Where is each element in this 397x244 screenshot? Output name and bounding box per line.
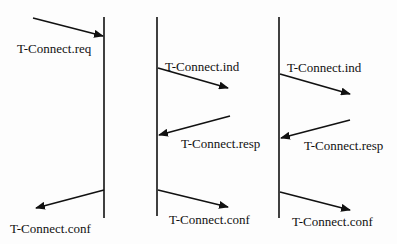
- label-b-ind: T-Connect.ind: [165, 60, 239, 73]
- label-a-conf: T-Connect.conf: [10, 222, 91, 235]
- arrow-b-conf: [158, 190, 228, 207]
- arrow-a-conf: [36, 190, 104, 208]
- arrow-c-conf: [280, 192, 350, 210]
- primitive-sequence-diagram: T-Connect.req T-Connect.conf T-Connect.i…: [0, 0, 397, 244]
- label-b-conf: T-Connect.conf: [169, 213, 250, 226]
- arrow-b-resp: [159, 116, 230, 135]
- arrow-a-req: [33, 18, 103, 36]
- arrow-c-resp: [281, 120, 350, 138]
- label-c-ind: T-Connect.ind: [287, 61, 361, 74]
- label-c-conf: T-Connect.conf: [292, 215, 373, 228]
- diagram-lines: [0, 0, 397, 244]
- label-c-resp: T-Connect.resp: [304, 139, 383, 152]
- label-b-resp: T-Connect.resp: [181, 137, 260, 150]
- arrow-c-ind: [280, 74, 350, 94]
- label-a-req: T-Connect.req: [17, 42, 91, 55]
